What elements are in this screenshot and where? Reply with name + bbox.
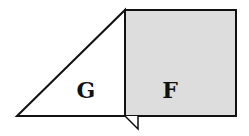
label-f: F [162,77,178,103]
diagram-canvas: G F [0,0,249,136]
fold-flap-marker [125,116,138,129]
square-f [125,10,236,116]
triangle-g [17,10,125,116]
label-g: G [77,77,96,103]
